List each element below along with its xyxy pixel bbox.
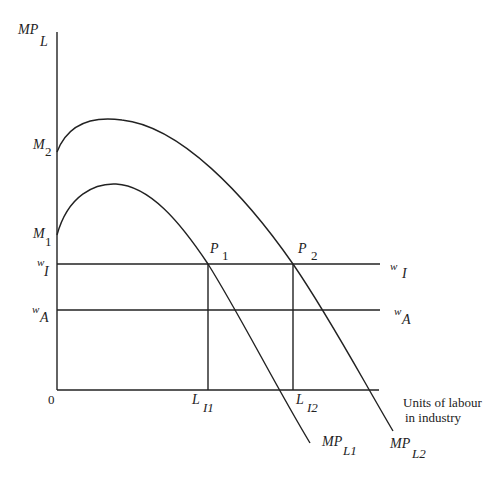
wage-agriculture-label-right: w (394, 305, 402, 317)
wage-industry-label-sub: I (43, 264, 50, 279)
wage-industry-label-right: w (390, 260, 398, 272)
l1-label: L (191, 392, 200, 407)
y-axis-label: MP (17, 22, 39, 37)
origin-label: 0 (48, 392, 55, 407)
m1-label: M (32, 226, 46, 241)
l2-label: L (295, 392, 304, 407)
mpl-diagram: MP L M 2 M 1 w I w A w I w A P 1 P 2 0 L… (0, 0, 498, 480)
l2-label-sub: I2 (306, 400, 318, 415)
mpl2-label-sub: L2 (411, 446, 426, 461)
mpl1-label: MP (321, 434, 343, 449)
mpl1-label-sub: L1 (342, 443, 357, 458)
curve-mpl2 (57, 119, 393, 431)
mpl2-label: MP (389, 436, 411, 451)
y-axis-label-sub: L (39, 34, 48, 49)
x-axis-label-line1: Units of labour (403, 395, 482, 410)
wage-industry-label-right-sub: I (401, 266, 408, 281)
m2-label-sub: 2 (45, 144, 52, 159)
m1-label-sub: 1 (45, 234, 52, 249)
p1-label: P (209, 241, 219, 256)
curve-mpl1 (57, 184, 310, 443)
wage-agriculture-label-right-sub: A (401, 312, 411, 327)
p1-label-sub: 1 (222, 248, 229, 263)
l1-label-sub: I1 (202, 400, 214, 415)
x-axis-label-line2: in industry (405, 410, 461, 425)
wage-agriculture-label-sub: A (39, 310, 49, 325)
wage-agriculture-label: w (32, 303, 40, 315)
m2-label: M (32, 137, 46, 152)
p2-label: P (297, 241, 307, 256)
p2-label-sub: 2 (311, 248, 318, 263)
